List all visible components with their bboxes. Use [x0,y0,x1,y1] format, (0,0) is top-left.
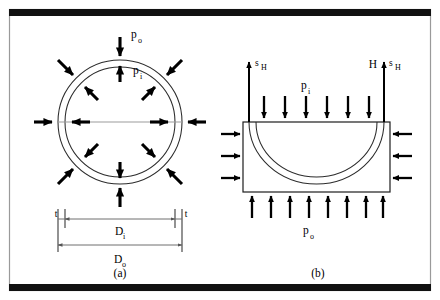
pi-label: p [133,64,139,77]
panel-a-caption: (a) [114,267,127,280]
t-right-label: t [185,209,188,219]
pi-b-label: p [301,79,307,92]
frame-top-bar [9,9,431,16]
sh-left-label-subscript: H [261,63,267,72]
po-b-label: p [303,224,309,237]
figure-container: p o p i [0,0,440,300]
engineering-diagram: p o p i [0,0,440,300]
po-label-subscript: o [138,36,142,45]
panel-b-caption: (b) [311,267,325,280]
po-label: p [131,28,137,41]
frame-bottom-bar [9,284,431,291]
free-body-box [243,122,390,192]
sh-right-label-subscript: H [395,63,401,72]
sh-right-label: s [389,58,393,68]
t-left-label: t [55,209,58,219]
hoop-force-label: H [369,58,377,70]
sh-left-label: s [255,58,259,68]
po-b-label-subscript: o [310,232,314,241]
